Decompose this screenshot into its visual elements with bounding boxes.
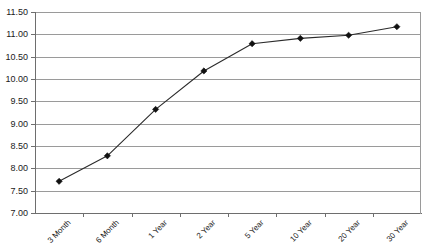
y-tick-label: 11.00 [6,29,28,39]
x-tick-labels: 3 Month6 Month1 Year2 Year5 Year10 Year2… [46,218,411,245]
x-tick-label: 2 Year [195,218,218,241]
line-chart: 11.5011.0010.5010.009.509.008.508.007.50… [0,0,438,252]
x-tick-label: 30 Year [385,218,411,244]
x-tick-label: 1 Year [147,218,170,241]
y-tick-label: 8.50 [10,141,28,151]
x-tick-label: 5 Year [243,218,266,241]
x-tick-label: 6 Month [94,218,121,245]
y-tick-label: 10.00 [5,74,28,84]
y-tick-label: 7.50 [10,186,28,196]
y-tick-label: 11.50 [6,7,28,17]
x-tick-label: 10 Year [288,218,314,244]
plot-background [35,12,421,213]
y-tick-label: 8.00 [10,163,28,173]
x-tick-label: 3 Month [46,218,73,245]
y-tick-label: 7.00 [10,208,28,218]
y-tick-label: 10.50 [5,52,28,62]
y-tick-labels: 11.5011.0010.5010.009.509.008.508.007.50… [5,7,28,218]
y-tick-marks [31,13,35,214]
chart-canvas: 11.5011.0010.5010.009.509.008.508.007.50… [0,0,438,252]
y-tick-label: 9.00 [10,119,28,129]
y-tick-label: 9.50 [10,96,28,106]
x-tick-label: 20 Year [336,218,362,244]
